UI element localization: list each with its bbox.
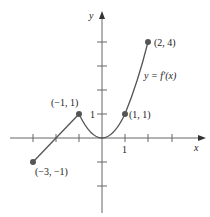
y-tick-label-1: 1 bbox=[90, 109, 95, 120]
y-axis-label: y bbox=[88, 10, 94, 21]
point-label-m3-m1: (−3, −1) bbox=[35, 166, 68, 178]
point-2-4 bbox=[145, 39, 151, 45]
point-label-1-1: (1, 1) bbox=[129, 109, 151, 121]
point-m3-m1 bbox=[30, 159, 36, 165]
derivative-graph: y x 1 1 (2, 4) y = f′(x) (−1, 1) (1, 1) … bbox=[0, 0, 210, 217]
curve-label: y = f′(x) bbox=[143, 70, 177, 82]
x-axis-label: x bbox=[193, 142, 199, 153]
point-label-m1-1: (−1, 1) bbox=[51, 97, 78, 109]
point-1-1 bbox=[122, 111, 128, 117]
y-axis-arrow-icon bbox=[99, 11, 105, 19]
x-tick-label-1: 1 bbox=[122, 144, 127, 155]
point-m1-1 bbox=[76, 111, 82, 117]
x-axis-arrow-icon bbox=[198, 135, 206, 141]
point-label-2-4: (2, 4) bbox=[154, 37, 176, 49]
